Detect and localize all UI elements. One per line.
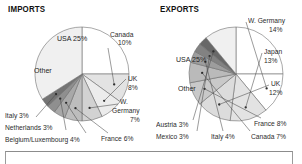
imports-callout-wgermany-l3: 7% [130, 116, 140, 124]
exports-slice-label-usa: USA 25% [176, 55, 206, 64]
exports-callout-uk-value: 12% [269, 89, 282, 97]
exports-chart-panel: EXPORTS USA 25% Other W. Germany 14% Jap… [151, 0, 302, 164]
imports-callout-belgium: Belgium/Luxembourg 4% [5, 136, 80, 144]
exports-callout-italy: Italy 4% [211, 133, 235, 141]
imports-slice-label-other: Other [34, 66, 52, 75]
exports-callout-canada: Canada 7% [251, 133, 286, 141]
imports-callout-netherlands: Netherlands 3% [5, 124, 53, 132]
exports-callout-france: France 8% [254, 120, 286, 128]
exports-callout-mexico: Mexico 3% [156, 133, 189, 141]
footer-box [5, 151, 293, 164]
imports-slice-label-usa: USA 25% [57, 34, 87, 43]
imports-callout-france: France 6% [101, 135, 133, 143]
exports-slice-label-other: Other [178, 84, 196, 93]
imports-callout-uk-value: 8% [128, 84, 138, 92]
imports-callout-italy: Italy 3% [5, 112, 29, 120]
leader-dot [218, 103, 220, 105]
exports-callout-austria: Austria 3% [156, 121, 188, 129]
imports-chart-panel: IMPORTS USA 25% Other Canada 10% UK 8% W… [0, 0, 151, 164]
imports-callout-canada-value: 10% [118, 39, 131, 47]
figure-root: IMPORTS USA 25% Other Canada 10% UK 8% W… [0, 0, 302, 164]
exports-callout-japan-value: 13% [264, 57, 277, 65]
exports-callout-wgermany-value: 14% [269, 26, 282, 34]
